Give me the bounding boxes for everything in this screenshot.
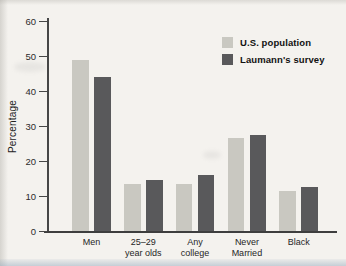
y-axis-tick-label: 20 [14, 157, 36, 166]
y-axis-tick [39, 161, 47, 162]
y-axis-tick-label: 30 [14, 122, 36, 131]
bar-u-s-population-men [72, 60, 89, 232]
x-axis-category-label: Black [265, 237, 333, 248]
bar-laumann-s-survey-25-29-year-olds [146, 180, 163, 231]
y-axis-tick-label: 0 [14, 227, 36, 236]
scan-showthrough-smudge [203, 151, 221, 159]
bar-chart-figure: Percentage 0102030405060Men25–29 year ol… [0, 0, 346, 266]
y-axis-tick [39, 196, 47, 197]
y-axis-tick [39, 126, 47, 127]
page-edge-shadow-top [0, 0, 346, 5]
y-axis-tick [39, 21, 47, 22]
y-axis-tick [39, 231, 47, 232]
bar-u-s-population-25-29-year-olds [124, 184, 141, 231]
legend-item-us-population: U.S. population [222, 37, 325, 48]
bar-u-s-population-any-college [176, 184, 193, 231]
y-axis-tick-label: 50 [14, 52, 36, 61]
scan-showthrough-smudge [14, 62, 46, 72]
y-axis-line [47, 18, 49, 231]
legend-label-laumanns-survey: Laumann's survey [240, 54, 325, 65]
y-axis-tick-label: 10 [14, 192, 36, 201]
legend-swatch-laumanns-survey [222, 54, 233, 65]
bar-laumann-s-survey-any-college [198, 175, 215, 231]
bar-laumann-s-survey-never-married [250, 135, 267, 231]
bar-laumann-s-survey-men [94, 77, 111, 231]
page-edge-shadow-bottom [0, 259, 346, 266]
y-axis-tick [39, 56, 47, 57]
chart-legend: U.S. population Laumann's survey [222, 37, 325, 71]
bar-u-s-population-black [279, 191, 296, 231]
x-axis-line [44, 231, 337, 233]
y-axis-tick-label: 40 [14, 87, 36, 96]
y-axis-tick [39, 91, 47, 92]
legend-label-us-population: U.S. population [240, 37, 311, 48]
bar-u-s-population-never-married [228, 138, 245, 231]
bar-laumann-s-survey-black [301, 187, 318, 231]
legend-item-laumanns-survey: Laumann's survey [222, 54, 325, 65]
y-axis-tick-label: 60 [14, 17, 36, 26]
legend-swatch-us-population [222, 37, 233, 48]
